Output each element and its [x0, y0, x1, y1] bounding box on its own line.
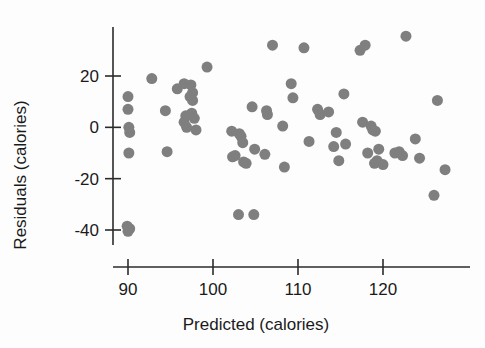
- data-point-marker: [277, 121, 288, 132]
- data-point-marker: [191, 124, 202, 135]
- y-axis-title: Residuals (calories): [11, 100, 30, 249]
- scatter-plot-figure: 200-20-40 90100110120 Residuals (calorie…: [0, 0, 485, 348]
- data-point-marker: [286, 78, 297, 89]
- data-point-marker: [304, 136, 315, 147]
- plot-canvas: 200-20-40 90100110120 Residuals (calorie…: [0, 0, 485, 348]
- data-point-marker: [247, 101, 258, 112]
- data-point-marker: [123, 104, 134, 115]
- data-point-marker: [333, 155, 344, 166]
- data-point-marker: [338, 88, 349, 99]
- data-point-marker: [160, 105, 171, 116]
- y-tick-label: 20: [80, 67, 99, 86]
- data-point-marker: [259, 149, 270, 160]
- x-tick-label: 120: [369, 280, 397, 299]
- data-point-marker: [397, 150, 408, 161]
- data-markers-layer: [122, 31, 451, 237]
- data-point-marker: [340, 139, 351, 150]
- data-point-marker: [287, 92, 298, 103]
- y-axis-ticks: 200-20-40: [74, 67, 121, 240]
- data-point-marker: [328, 141, 339, 152]
- axis-labels-layer: Residuals (calories) Predicted (calories…: [11, 100, 329, 334]
- data-point-marker: [241, 158, 252, 169]
- data-point-marker: [362, 148, 373, 159]
- data-point-marker: [262, 109, 273, 120]
- data-point-marker: [400, 31, 411, 42]
- data-point-marker: [187, 95, 198, 106]
- data-point-marker: [279, 162, 290, 173]
- data-point-marker: [298, 42, 309, 53]
- data-point-marker: [370, 126, 381, 137]
- data-point-marker: [202, 62, 213, 73]
- data-point-marker: [233, 209, 244, 220]
- data-point-marker: [267, 40, 278, 51]
- x-axis-ticks: 90100110120: [119, 259, 398, 299]
- data-point-marker: [162, 146, 173, 157]
- y-tick-label: 0: [90, 118, 99, 137]
- data-point-marker: [189, 113, 200, 124]
- data-point-marker: [181, 122, 192, 133]
- x-tick-label: 100: [199, 280, 227, 299]
- data-point-marker: [360, 40, 371, 51]
- data-point-marker: [410, 133, 421, 144]
- x-tick-label: 90: [119, 280, 138, 299]
- data-point-marker: [248, 209, 259, 220]
- data-point-marker: [123, 226, 134, 237]
- data-point-marker: [146, 73, 157, 84]
- y-tick-label: -40: [74, 221, 99, 240]
- data-point-marker: [331, 127, 342, 138]
- y-tick-label: -20: [74, 170, 99, 189]
- axes-layer: 200-20-40 90100110120: [74, 27, 470, 299]
- data-point-marker: [124, 127, 135, 138]
- data-point-marker: [432, 95, 443, 106]
- data-point-marker: [440, 164, 451, 175]
- data-point-marker: [378, 159, 389, 170]
- x-tick-label: 110: [284, 280, 311, 299]
- data-point-marker: [123, 91, 134, 102]
- data-point-marker: [373, 144, 384, 155]
- data-point-marker: [249, 144, 260, 155]
- data-point-marker: [237, 137, 248, 148]
- data-point-marker: [414, 153, 425, 164]
- data-point-marker: [123, 148, 134, 159]
- data-point-marker: [429, 190, 440, 201]
- x-axis-title: Predicted (calories): [183, 315, 329, 334]
- data-point-marker: [323, 106, 334, 117]
